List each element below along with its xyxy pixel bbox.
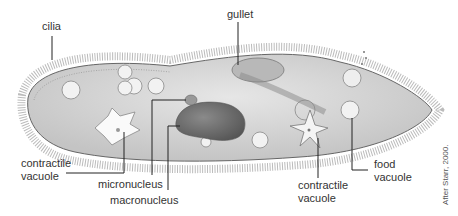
macronucleus xyxy=(176,102,245,140)
image-credit: After Starr, 2000. xyxy=(441,145,450,205)
label-micronucleus: micronucleus xyxy=(98,178,163,190)
micronucleus xyxy=(185,95,197,105)
label-food-vacuole-2: vacuole xyxy=(374,171,412,183)
label-contractile-vacuole-left-1: contractile xyxy=(21,157,71,169)
label-cilia: cilia xyxy=(42,20,61,32)
label-contractile-vacuole-right-1: contractile xyxy=(298,179,348,191)
label-food-vacuole-1: food xyxy=(374,158,395,170)
paramecium-illustration xyxy=(0,0,458,216)
label-contractile-vacuole-left-2: vacuole xyxy=(21,170,59,182)
label-gullet: gullet xyxy=(227,8,253,20)
label-contractile-vacuole-right-2: vacuole xyxy=(298,192,336,204)
label-macronucleus: macronucleus xyxy=(110,194,178,206)
